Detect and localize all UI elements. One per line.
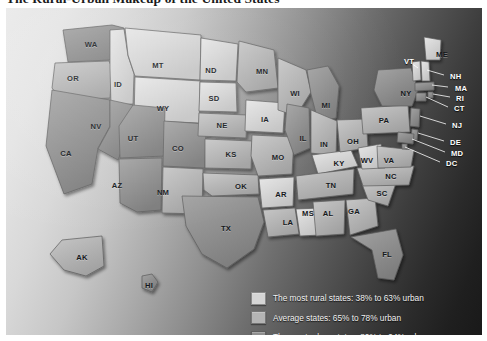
legend-item-rural: The most rural states: 38% to 63% urban bbox=[251, 290, 475, 306]
leader-DE bbox=[418, 133, 444, 141]
map-legend: The most rural states: 38% to 63% urban … bbox=[251, 290, 475, 335]
leader-MA bbox=[432, 85, 448, 87]
state-AZ bbox=[119, 158, 162, 212]
legend-label-average: Average states: 65% to 78% urban bbox=[273, 313, 401, 323]
state-MO bbox=[251, 135, 294, 176]
map-canvas: WAORIDMTWYCANVUTCOAZNMNDSDNEKSOKTXMNIAMO… bbox=[6, 8, 482, 335]
state-VA bbox=[377, 146, 414, 168]
state-RI bbox=[428, 92, 433, 98]
state-FL bbox=[351, 229, 403, 280]
state-DC bbox=[402, 144, 407, 149]
state-NE bbox=[198, 113, 247, 138]
state-AL bbox=[313, 200, 345, 236]
state-CA bbox=[46, 90, 110, 194]
legend-swatch-average bbox=[251, 311, 266, 324]
us-states-shapes bbox=[6, 8, 482, 335]
state-HI bbox=[142, 274, 158, 292]
state-VT bbox=[412, 61, 421, 81]
state-TX bbox=[182, 196, 264, 268]
state-GA bbox=[346, 198, 378, 235]
leader-MD bbox=[412, 139, 445, 152]
state-NH bbox=[421, 61, 430, 81]
leader-CT bbox=[426, 97, 448, 107]
state-ME bbox=[424, 37, 441, 60]
state-LA bbox=[263, 208, 299, 237]
state-OK bbox=[203, 173, 259, 196]
legend-swatch-rural bbox=[251, 292, 266, 305]
state-MT bbox=[125, 28, 201, 80]
legend-item-urban: The most urban states: 80% to 94% urban bbox=[251, 329, 475, 335]
legend-item-average: Average states: 65% to 78% urban bbox=[251, 310, 475, 326]
state-SD bbox=[199, 82, 237, 112]
leader-RI bbox=[433, 94, 450, 97]
state-ND bbox=[200, 38, 238, 81]
state-MN bbox=[237, 41, 278, 92]
legend-swatch-urban bbox=[251, 331, 266, 336]
state-MA bbox=[415, 82, 434, 91]
legend-label-rural: The most rural states: 38% to 63% urban bbox=[273, 293, 424, 303]
map-figure: The Rural-Urban Makeup of the United Sta… bbox=[0, 0, 487, 341]
state-KS bbox=[205, 139, 252, 169]
state-NY bbox=[374, 68, 418, 106]
leader-NJ bbox=[420, 116, 446, 124]
state-TN bbox=[296, 169, 354, 200]
legend-label-urban: The most urban states: 80% to 94% urban bbox=[273, 332, 428, 335]
figure-title: The Rural-Urban Makeup of the United Sta… bbox=[6, 0, 476, 7]
state-AR bbox=[259, 177, 294, 208]
map-panel: WAORIDMTWYCANVUTCOAZNMNDSDNEKSOKTXMNIAMO… bbox=[6, 8, 482, 335]
state-MD bbox=[397, 132, 414, 144]
state-AK bbox=[50, 236, 104, 276]
state-PA bbox=[361, 105, 410, 134]
state-NJ bbox=[410, 108, 420, 127]
state-CT bbox=[416, 93, 426, 101]
